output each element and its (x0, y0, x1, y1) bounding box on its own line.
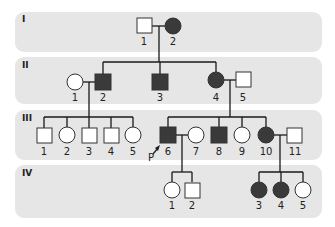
label-II-4: 4 (213, 92, 219, 103)
label-III-11: 11 (289, 146, 302, 157)
individual-III-3-unaffected-male (82, 128, 97, 143)
label-I-1: 1 (141, 36, 147, 47)
label-III-4: 4 (108, 146, 114, 157)
label-III-2: 2 (64, 146, 70, 157)
individual-IV-2-unaffected-male (185, 183, 200, 198)
label-III-7: 7 (193, 146, 199, 157)
individual-IV-3-affected-female (251, 182, 267, 198)
individual-I-1-unaffected-male (137, 18, 152, 33)
label-III-9: 9 (239, 146, 245, 157)
individual-III-10-affected-female (258, 127, 274, 143)
label-III-5: 5 (130, 146, 136, 157)
individual-IV-1-unaffected-female (164, 182, 180, 198)
individual-II-1-unaffected-female (67, 74, 83, 90)
label-II-1: 1 (72, 92, 78, 103)
label-IV-2: 2 (189, 200, 195, 211)
individual-III-1-unaffected-male (37, 128, 52, 143)
individual-III-8-affected-male (211, 127, 227, 143)
label-III-6: 6 (165, 146, 171, 157)
label-III-10: 10 (260, 146, 273, 157)
label-II-5: 5 (240, 92, 246, 103)
individual-IV-5-unaffected-female (295, 182, 311, 198)
label-II-3: 3 (157, 92, 163, 103)
individual-III-6-affected-male-proband (160, 127, 176, 143)
individual-III-4-unaffected-male (104, 128, 119, 143)
connector-lines (44, 26, 303, 182)
individual-III-5-unaffected-female (125, 127, 141, 143)
individual-II-4-affected-female (208, 72, 224, 88)
label-IV-1: 1 (169, 200, 175, 211)
individual-II-5-unaffected-male (236, 72, 251, 87)
individual-III-2-unaffected-female (59, 127, 75, 143)
individual-II-3-affected-male (152, 74, 168, 90)
pedigree-diagram: P 1 2 1 2 3 4 5 1 2 3 4 5 6 7 8 9 10 11 … (0, 0, 335, 227)
label-IV-4: 4 (278, 200, 284, 211)
individual-IV-4-affected-female (273, 182, 289, 198)
individual-II-2-affected-male (95, 74, 111, 90)
proband-label: P (148, 152, 154, 163)
label-III-3: 3 (86, 146, 92, 157)
individual-III-9-unaffected-female (234, 127, 250, 143)
proband-arrow-icon (153, 145, 160, 154)
label-IV-3: 3 (256, 200, 262, 211)
label-III-8: 8 (216, 146, 222, 157)
individual-III-7-unaffected-female (188, 127, 204, 143)
individual-I-2-affected-female (165, 18, 181, 34)
label-II-2: 2 (100, 92, 106, 103)
individual-III-11-unaffected-male (287, 128, 302, 143)
label-I-2: 2 (170, 36, 176, 47)
label-IV-5: 5 (300, 200, 306, 211)
label-III-1: 1 (41, 146, 47, 157)
